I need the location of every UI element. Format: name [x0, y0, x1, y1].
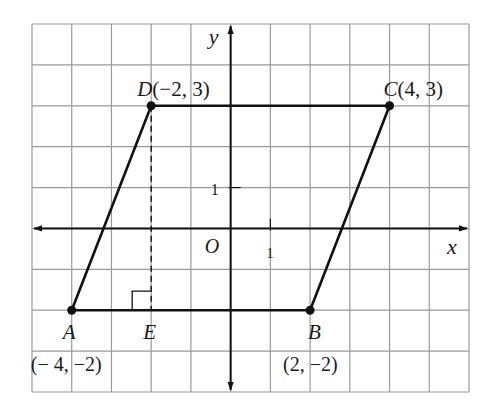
point-a-coordinates: (− 4, −2) [31, 353, 102, 376]
point-e-label: E [142, 320, 156, 344]
origin-label: O [205, 235, 219, 257]
vertex-d-dot [147, 101, 156, 110]
coordinate-plane-diagram: yxO11D(−2, 3)C(4, 3)A(− 4, −2)EB(2, −2) [0, 0, 493, 418]
x-tick-label: 1 [266, 245, 274, 261]
point-a-label: A [61, 320, 76, 344]
point-b-label: B [308, 320, 321, 344]
point-c-label: C(4, 3) [384, 77, 444, 101]
y-tick-label: 1 [211, 181, 219, 198]
vertex-c-dot [385, 101, 394, 110]
vertex-b-dot [306, 306, 315, 315]
right-angle-marker [132, 291, 151, 310]
point-d-label: D(−2, 3) [136, 77, 210, 101]
vertex-a-dot [67, 306, 76, 315]
point-b-coordinates: (2, −2) [283, 353, 338, 376]
labels: yxO11D(−2, 3)C(4, 3)A(− 4, −2)EB(2, −2) [31, 24, 457, 376]
y-axis-label: y [207, 24, 219, 49]
x-axis-label: x [446, 234, 457, 259]
